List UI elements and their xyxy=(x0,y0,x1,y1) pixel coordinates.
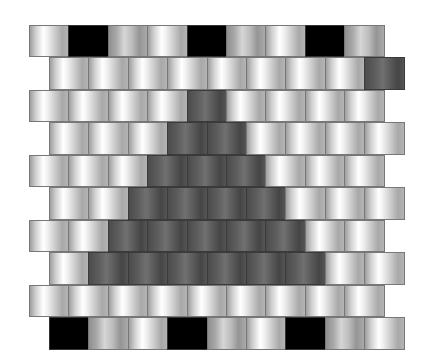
light-brick xyxy=(285,187,325,220)
mid-brick xyxy=(344,25,384,58)
dark-brick xyxy=(147,155,187,188)
light-brick xyxy=(265,90,305,123)
brick-row-2 xyxy=(49,57,404,90)
light-brick xyxy=(147,25,187,58)
light-brick xyxy=(29,25,69,58)
light-brick xyxy=(29,90,69,123)
dark-brick xyxy=(285,252,325,285)
brick-row-9 xyxy=(29,285,384,318)
dark-brick xyxy=(246,187,286,220)
dark-brick xyxy=(207,187,247,220)
mid-brick xyxy=(207,317,247,350)
light-brick xyxy=(49,187,89,220)
brick-row-7 xyxy=(29,220,384,253)
light-brick xyxy=(226,285,266,318)
dark-brick xyxy=(167,187,207,220)
light-brick xyxy=(305,285,345,318)
dark-brick xyxy=(207,252,247,285)
light-brick xyxy=(49,122,89,155)
light-brick xyxy=(344,220,384,253)
light-brick xyxy=(344,285,384,318)
light-brick xyxy=(167,57,207,90)
light-brick xyxy=(68,220,108,253)
light-brick xyxy=(29,155,69,188)
light-brick xyxy=(325,187,365,220)
light-brick xyxy=(49,57,89,90)
light-brick xyxy=(344,90,384,123)
light-brick xyxy=(128,122,168,155)
black-brick xyxy=(68,25,108,58)
black-brick xyxy=(49,317,89,350)
light-brick xyxy=(364,187,404,220)
dark-brick xyxy=(147,220,187,253)
light-brick xyxy=(68,90,108,123)
dark-brick xyxy=(167,122,207,155)
mid-brick xyxy=(108,25,148,58)
dark-brick xyxy=(265,220,305,253)
brick-row-3 xyxy=(29,90,384,123)
dark-brick xyxy=(88,252,128,285)
light-brick xyxy=(88,122,128,155)
dark-brick xyxy=(364,57,404,90)
light-brick xyxy=(305,155,345,188)
brick-row-5 xyxy=(29,155,384,188)
black-brick xyxy=(285,317,325,350)
light-brick xyxy=(29,220,69,253)
light-brick xyxy=(364,317,404,350)
dark-brick xyxy=(187,90,227,123)
light-brick xyxy=(147,90,187,123)
brick-row-8 xyxy=(49,252,404,285)
light-brick xyxy=(325,122,365,155)
light-brick xyxy=(68,155,108,188)
brick-row-4 xyxy=(49,122,404,155)
light-brick xyxy=(29,285,69,318)
light-brick xyxy=(49,252,89,285)
brick-wall xyxy=(0,0,435,364)
black-brick xyxy=(187,25,227,58)
light-brick xyxy=(246,57,286,90)
brick-row-10 xyxy=(49,317,404,350)
light-brick xyxy=(305,220,345,253)
dark-brick xyxy=(187,220,227,253)
brick-row-6 xyxy=(49,187,404,220)
light-brick xyxy=(325,252,365,285)
light-brick xyxy=(207,57,247,90)
light-brick xyxy=(128,317,168,350)
light-brick xyxy=(246,122,286,155)
black-brick xyxy=(167,317,207,350)
dark-brick xyxy=(128,187,168,220)
light-brick xyxy=(265,25,305,58)
dark-brick xyxy=(128,252,168,285)
dark-brick xyxy=(226,155,266,188)
light-brick xyxy=(108,155,148,188)
mid-brick xyxy=(226,25,266,58)
light-brick xyxy=(265,285,305,318)
light-brick xyxy=(108,90,148,123)
light-brick xyxy=(344,155,384,188)
light-brick xyxy=(325,57,365,90)
dark-brick xyxy=(207,122,247,155)
light-brick xyxy=(88,57,128,90)
dark-brick xyxy=(246,252,286,285)
dark-brick xyxy=(187,155,227,188)
brick-row-1 xyxy=(29,25,384,58)
light-brick xyxy=(147,285,187,318)
black-brick xyxy=(305,25,345,58)
light-brick xyxy=(305,90,345,123)
light-brick xyxy=(128,57,168,90)
light-brick xyxy=(364,252,404,285)
light-brick xyxy=(108,285,148,318)
light-brick xyxy=(285,57,325,90)
dark-brick xyxy=(108,220,148,253)
light-brick xyxy=(285,122,325,155)
mid-brick xyxy=(88,317,128,350)
light-brick xyxy=(265,155,305,188)
light-brick xyxy=(226,90,266,123)
dark-brick xyxy=(226,220,266,253)
dark-brick xyxy=(167,252,207,285)
light-brick xyxy=(246,317,286,350)
light-brick xyxy=(68,285,108,318)
light-brick xyxy=(88,187,128,220)
light-brick xyxy=(364,122,404,155)
mid-brick xyxy=(325,317,365,350)
